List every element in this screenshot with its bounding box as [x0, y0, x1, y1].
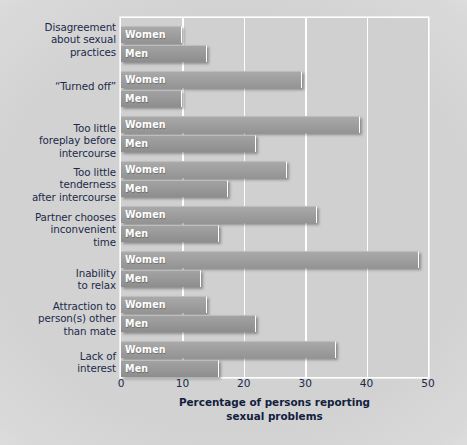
bar-label-women: Women [125, 164, 166, 175]
x-tick-label: 0 [118, 377, 125, 389]
bar-women: Women [121, 206, 317, 223]
category-label: Attraction to person(s) other than mate [4, 300, 116, 337]
bar-label-women: Women [125, 119, 166, 130]
x-axis-title-line1: Percentage of persons reporting [121, 396, 428, 410]
category-label: Lack of interest [4, 350, 116, 375]
x-tick-label: 50 [421, 377, 434, 389]
bar-men: Men [121, 90, 182, 107]
category-label: Disagreement about sexual practices [4, 21, 116, 58]
bar-women: Women [121, 71, 302, 88]
bar-men: Men [121, 225, 219, 242]
bar-label-men: Men [125, 48, 148, 59]
bar-label-women: Women [125, 209, 166, 220]
gridline-30 [305, 18, 307, 377]
category-label: “Turned off” [4, 80, 116, 92]
category-label: Too little foreplay before intercourse [4, 122, 116, 159]
category-label: Too little tenderness after intercourse [4, 166, 116, 203]
bar-women: Women [121, 161, 287, 178]
bar-men: Men [121, 180, 228, 197]
gridline-40 [367, 18, 369, 377]
x-axis: 0 10 20 30 40 50 [121, 377, 428, 395]
bar-men: Men [121, 45, 207, 62]
bar-men: Men [121, 135, 256, 152]
bar-women: Women [121, 116, 360, 133]
x-tick-label: 30 [298, 377, 311, 389]
bar-label-women: Women [125, 74, 166, 85]
bar-label-men: Men [125, 273, 148, 284]
bar-women: Women [121, 296, 207, 313]
plot-area: Women Men Women Men Women Men Women [121, 18, 428, 377]
bar-label-women: Women [125, 29, 166, 40]
bar-label-men: Men [125, 228, 148, 239]
x-axis-title-line2: sexual problems [121, 410, 428, 424]
category-label: Partner chooses inconvenient time [4, 211, 116, 248]
bar-men: Men [121, 360, 219, 377]
category-label-column: Disagreement about sexual practices “Tur… [4, 18, 116, 376]
bar-label-women: Women [125, 344, 166, 355]
bar-label-men: Men [125, 138, 148, 149]
bar-label-women: Women [125, 254, 166, 265]
x-tick-label: 10 [176, 377, 189, 389]
bar-women: Women [121, 26, 182, 43]
category-label: Inability to relax [4, 267, 116, 292]
bar-label-men: Men [125, 183, 148, 194]
x-tick-label: 40 [360, 377, 373, 389]
x-axis-title: Percentage of persons reporting sexual p… [121, 396, 428, 423]
bar-label-men: Men [125, 93, 148, 104]
x-tick-label: 20 [237, 377, 250, 389]
bar-label-men: Men [125, 363, 148, 374]
chart-figure: Disagreement about sexual practices “Tur… [0, 0, 467, 445]
bar-men: Men [121, 315, 256, 332]
bar-men: Men [121, 270, 201, 287]
bar-women: Women [121, 251, 419, 268]
bar-label-men: Men [125, 318, 148, 329]
bar-women: Women [121, 341, 336, 358]
bar-label-women: Women [125, 299, 166, 310]
